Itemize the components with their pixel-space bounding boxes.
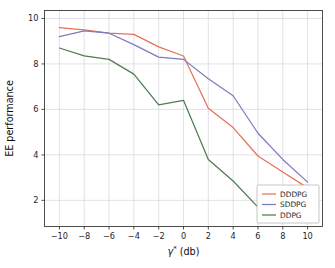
- x-tick-label: −8: [78, 231, 90, 241]
- legend-label-sddpg: SDDPG: [280, 200, 307, 209]
- x-tick-label: 8: [280, 231, 285, 241]
- x-tick-label: 4: [231, 231, 236, 241]
- y-tick-label: 2: [33, 195, 38, 205]
- y-tick-label: 6: [33, 104, 38, 114]
- x-tick-label: 10: [302, 231, 312, 241]
- x-tick-label: −6: [103, 231, 115, 241]
- legend-label-ddpg: DDPG: [280, 211, 302, 220]
- y-tick-label: 8: [33, 59, 38, 69]
- x-tick-label: 6: [255, 231, 260, 241]
- y-tick-label: 10: [28, 13, 38, 23]
- chart-legend[interactable]: DDDPGSDDPGDDPG: [257, 185, 319, 223]
- x-tick-label: 0: [181, 231, 186, 241]
- legend-label-dddpg: DDDPG: [280, 190, 308, 199]
- x-tick-label: −2: [153, 231, 165, 241]
- x-axis-title: γ* (db): [168, 245, 200, 257]
- x-tick-label: −10: [51, 231, 68, 241]
- line-chart: −10−8−6−4−20246810 246810 γ* (db) EE per…: [0, 0, 335, 268]
- y-tick-label: 4: [33, 150, 38, 160]
- x-tick-label: 2: [206, 231, 211, 241]
- chart-figure: −10−8−6−4−20246810 246810 γ* (db) EE per…: [0, 0, 335, 268]
- y-axis-title: EE performance: [4, 80, 15, 157]
- x-tick-label: −4: [128, 231, 140, 241]
